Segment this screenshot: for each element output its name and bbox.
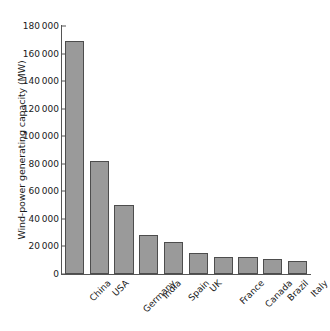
x-axis-label: Spain <box>186 278 211 303</box>
bar <box>139 235 158 274</box>
bar <box>238 257 257 274</box>
y-axis-tick-label: 180 000 <box>23 21 62 31</box>
y-axis-tick-label: 140 000 <box>23 76 62 86</box>
x-axis-label: USA <box>110 278 130 298</box>
y-axis-tick: 180 000 <box>23 21 62 31</box>
bar <box>214 257 233 274</box>
y-axis-tick-label: 60 000 <box>29 186 62 196</box>
y-axis-title: Wind-power generating capacity (MW) <box>14 26 28 274</box>
y-axis-tick: 120 000 <box>23 104 62 114</box>
x-axis-labels: ChinaUSAGermanyIndiaSpainUKFranceCanadaB… <box>62 276 310 331</box>
y-axis-tick-label: 40 000 <box>29 214 62 224</box>
y-axis-tick-label: 100 000 <box>23 131 62 141</box>
y-axis-tick: 140 000 <box>23 76 62 86</box>
x-axis-label: UK <box>208 278 224 294</box>
y-axis-tick: 0 <box>53 269 62 279</box>
bar <box>65 41 84 274</box>
x-axis-label: France <box>237 278 265 306</box>
bar <box>189 253 208 274</box>
y-axis-tick: 60 000 <box>29 186 62 196</box>
x-axis-label: India <box>161 278 184 301</box>
bar <box>114 205 133 274</box>
y-axis-tick-label: 0 <box>53 269 62 279</box>
y-axis-tick: 40 000 <box>29 214 62 224</box>
bar <box>263 259 282 274</box>
y-axis-tick-label: 160 000 <box>23 49 62 59</box>
y-axis-tick: 160 000 <box>23 49 62 59</box>
y-axis-tick-label: 120 000 <box>23 104 62 114</box>
y-axis-tick: 100 000 <box>23 131 62 141</box>
y-axis-tick-label: 80 000 <box>29 159 62 169</box>
y-axis-tick: 80 000 <box>29 159 62 169</box>
x-axis-label: China <box>87 278 112 303</box>
y-axis-tick-label: 20 000 <box>29 241 62 251</box>
bar <box>164 242 183 274</box>
bar <box>288 261 307 274</box>
x-axis-label: Italy <box>309 278 330 299</box>
x-axis-line <box>61 274 311 275</box>
bar <box>90 161 109 274</box>
y-axis-tick: 20 000 <box>29 241 62 251</box>
bar-series <box>62 26 310 274</box>
